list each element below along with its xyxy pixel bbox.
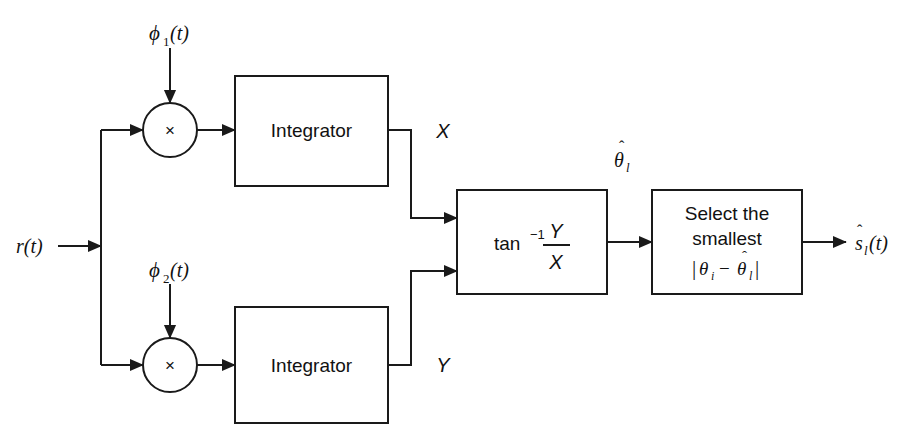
output-hat: ˆ bbox=[857, 222, 863, 239]
phi2-subscript: 2 bbox=[163, 271, 170, 286]
theta-hat-l-sub: l bbox=[626, 160, 630, 175]
output-sub: l bbox=[864, 243, 868, 258]
arctan-function-label: tan bbox=[494, 233, 520, 254]
block-integrator-upper: Integrator bbox=[235, 76, 388, 186]
block-select-smallest: Select the smallest | θ i − θ ˆ l | bbox=[652, 190, 802, 294]
integrator-lower-label: Integrator bbox=[271, 355, 353, 376]
abs-open-bar: | bbox=[692, 256, 696, 280]
theta-hat-l-label: θ ˆ l bbox=[614, 138, 630, 175]
abs-close-bar: | bbox=[755, 256, 759, 280]
diagram-canvas: Integrator Integrator tan −1 Y X Select … bbox=[0, 0, 915, 446]
theta-hat-l-accent: ˆ bbox=[742, 248, 747, 264]
x-signal-label: X bbox=[435, 120, 450, 142]
output-signal-label: s ˆ l (t) bbox=[855, 222, 888, 258]
select-smallest-line1: Select the bbox=[685, 203, 770, 224]
block-integrator-lower: Integrator bbox=[235, 307, 388, 423]
phi1-symbol: ϕ bbox=[149, 21, 160, 45]
phi2-label: ϕ 2 (t) bbox=[149, 258, 189, 286]
arctan-outline bbox=[457, 190, 607, 294]
theta-i-symbol: θ bbox=[699, 258, 708, 279]
integrator-upper-label: Integrator bbox=[271, 120, 353, 141]
minus-sign: − bbox=[719, 258, 730, 279]
wire-x-to-arctan bbox=[388, 130, 457, 218]
y-signal-label: Y bbox=[436, 354, 451, 376]
block-diagram-figure: Integrator Integrator tan −1 Y X Select … bbox=[0, 0, 915, 446]
phi1-suffix: (t) bbox=[170, 22, 189, 45]
multiplier-upper: × bbox=[143, 103, 197, 157]
multiply-icon: × bbox=[165, 356, 175, 375]
block-arctan: tan −1 Y X bbox=[457, 190, 607, 294]
theta-i-subscript: i bbox=[711, 269, 714, 283]
multiplier-lower: × bbox=[143, 338, 197, 392]
theta-hat-l-hat: ˆ bbox=[619, 138, 625, 155]
arctan-denominator-label: X bbox=[548, 251, 563, 273]
arctan-exponent-label: −1 bbox=[530, 227, 545, 242]
phi1-label: ϕ 1 (t) bbox=[149, 21, 189, 49]
phi2-symbol: ϕ bbox=[149, 258, 160, 282]
phi2-suffix: (t) bbox=[170, 259, 189, 282]
output-suffix: (t) bbox=[869, 232, 888, 255]
multiply-icon: × bbox=[165, 121, 175, 140]
select-smallest-line2: smallest bbox=[692, 228, 762, 249]
wire-y-to-arctan bbox=[388, 271, 457, 365]
phi1-subscript: 1 bbox=[163, 34, 170, 49]
arctan-numerator-label: Y bbox=[549, 220, 564, 242]
input-signal-label: r(t) bbox=[16, 235, 43, 258]
